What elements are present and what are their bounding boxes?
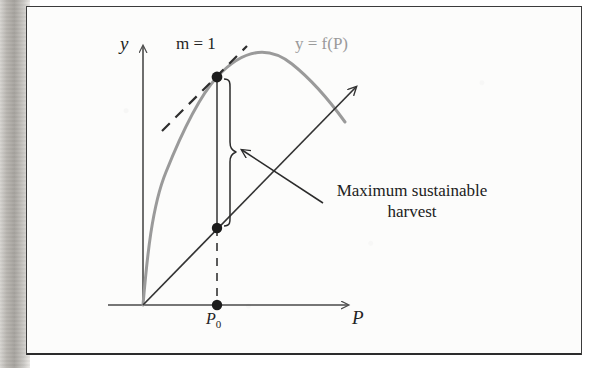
tangent-line-dashed [162,46,247,131]
tangent-slope-label: m = 1 [176,34,216,54]
harvest-brace [224,79,236,226]
p0-label-subscript: 0 [216,318,222,330]
ray-intersection-marker [212,223,222,233]
annotation-line-2: harvest [312,202,512,223]
x-axis-label: P [352,307,364,329]
maximum-sustainable-harvest-annotation: Maximum sustainable harvest [312,181,512,222]
p0-label-base: P [206,310,216,327]
p0-label: P0 [206,310,221,330]
y-axis-label: y [120,33,128,55]
curve-function-label: y = f(P) [295,34,348,54]
harvest-curve [143,52,345,305]
tangency-point-marker [212,72,223,83]
annotation-arrow [242,150,323,203]
annotation-line-1: Maximum sustainable [312,181,512,202]
p0-axis-marker [212,300,222,310]
